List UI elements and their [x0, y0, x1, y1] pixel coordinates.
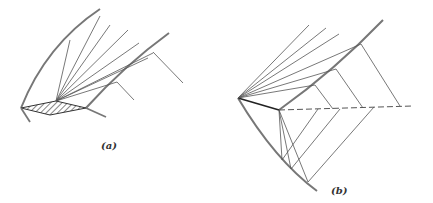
panel-b-lower-projections	[282, 107, 374, 182]
panel-a-label: (a)	[101, 140, 117, 151]
panel-a-right-tail	[86, 108, 106, 117]
panel-b-upper-projections	[315, 44, 400, 109]
diagram-canvas	[0, 0, 433, 203]
panel-a	[21, 9, 183, 122]
panel-a-right-arc	[86, 33, 169, 108]
panel-b-lower-arc	[238, 98, 317, 191]
panel-a-projection-2	[117, 82, 134, 100]
panel-b-label: (b)	[331, 185, 347, 196]
panel-b-dashed-line	[279, 106, 413, 110]
panel-a-projection-1	[153, 52, 183, 83]
panel-a-hatched-region	[21, 101, 86, 115]
panel-b-upper-arc	[279, 20, 383, 110]
panel-b-fan-lines	[238, 25, 361, 98]
panel-b	[238, 20, 413, 191]
